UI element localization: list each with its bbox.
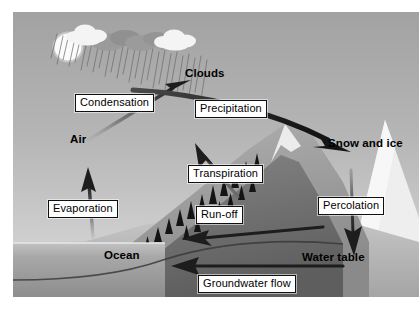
label-runoff: Run-off: [196, 206, 243, 224]
label-condensation: Condensation: [75, 94, 154, 112]
water-cycle-diagram: Clouds Air Snow and ice Ocean Water tabl…: [0, 0, 419, 310]
label-air: Air: [70, 133, 86, 146]
label-precipitation: Precipitation: [195, 100, 267, 118]
ocean-body: [13, 243, 165, 297]
label-percolation: Percolation: [318, 197, 384, 215]
label-water-table: Water table: [302, 251, 365, 264]
label-snow-and-ice: Snow and ice: [328, 137, 403, 150]
diagram-scene: Clouds Air Snow and ice Ocean Water tabl…: [13, 12, 419, 297]
label-clouds: Clouds: [185, 67, 225, 80]
label-groundwater-flow: Groundwater flow: [198, 275, 296, 293]
label-transpiration: Transpiration: [188, 165, 263, 183]
label-ocean: Ocean: [104, 249, 140, 262]
label-evaporation: Evaporation: [48, 200, 118, 218]
